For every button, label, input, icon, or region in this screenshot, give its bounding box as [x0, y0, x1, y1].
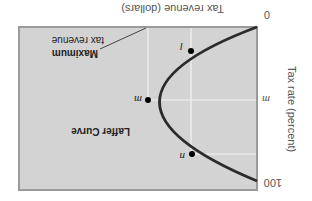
annotation-line-2: tax revenue [51, 35, 104, 46]
y-tick-m: m [262, 94, 270, 106]
y-axis-label: Tax rate (percent) [286, 66, 298, 152]
point-m [145, 97, 151, 103]
point-label-n: n [179, 151, 185, 163]
annotation-line-1: Maximum [52, 48, 98, 59]
curve-label: Laffer Curve [71, 126, 130, 137]
chart-canvas: l m n 0 m 100 Tax rate (percent) Tax rev… [0, 0, 312, 201]
x-axis-label: Tax revenue (dollars) [121, 3, 224, 15]
point-label-l: l [180, 41, 183, 53]
point-n [189, 151, 195, 157]
point-label-m: m [134, 94, 142, 106]
laffer-curve-figure: l m n 0 m 100 Tax rate (percent) Tax rev… [0, 0, 312, 201]
y-tick-100: 100 [264, 177, 282, 189]
point-l [188, 48, 194, 54]
y-tick-0: 0 [264, 9, 270, 21]
